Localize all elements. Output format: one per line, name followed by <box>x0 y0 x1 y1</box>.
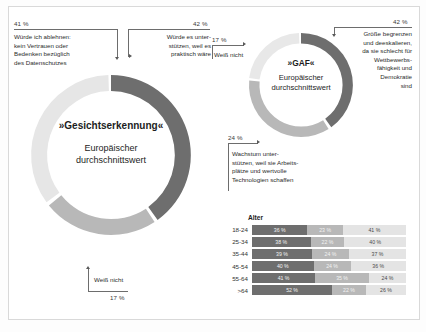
callout-unknown-right-pct: 17 % <box>212 36 227 43</box>
bar-segment: 24 % <box>312 249 349 259</box>
callout-growth-rule-v <box>228 143 229 191</box>
callout-support-text: Würde es unter- stützen, weil es praktis… <box>135 33 211 59</box>
donut-left-segment-unknown <box>49 195 155 235</box>
callout-reject-pct: 41 % <box>14 20 29 27</box>
callout-support-rule-h <box>128 29 210 30</box>
callout-reject-rule-v <box>117 29 118 57</box>
bar-segment: 36 % <box>351 261 406 271</box>
bar-segment: 39 % <box>252 249 312 259</box>
bar-segment: 52 % <box>252 285 332 295</box>
callout-growth-text: Wachstum unter- stützen, weil sie Arbeit… <box>232 150 326 184</box>
bar-segment: 22 % <box>311 237 345 247</box>
callout-growth-rule-h <box>228 143 258 144</box>
donut-left-title: »Gesichtserkennung« <box>18 120 204 131</box>
bar-row: 18-2436 %23 %41 % <box>224 225 406 235</box>
callout-support-rule-v <box>128 29 129 57</box>
bar-track: 41 %35 %24 % <box>252 273 406 283</box>
callout-growth-pct: 24 % <box>228 134 243 141</box>
callout-unknown-right-rule-v <box>212 45 213 59</box>
bar-rows-container: 18-2436 %23 %41 %25-3438 %22 %40 %35-443… <box>224 225 406 295</box>
callout-limit-rule-h <box>334 27 412 28</box>
bar-track: 40 %24 %36 % <box>252 261 406 271</box>
age-breakdown-chart: Alter 18-2436 %23 %41 %25-3438 %22 %40 %… <box>224 214 406 298</box>
bar-row: 25-3438 %22 %40 % <box>224 237 406 247</box>
callout-reject-rule-h <box>14 29 118 30</box>
bars-title: Alter <box>248 214 406 221</box>
bar-segment: 36 % <box>252 225 307 235</box>
callout-unknown-left-pct: 17 % <box>110 294 125 301</box>
bar-segment: 23 % <box>307 225 342 235</box>
bar-segment: 22 % <box>332 285 366 295</box>
callout-support-pct: 42 % <box>193 20 208 27</box>
bar-segment: 41 % <box>252 273 315 283</box>
bar-row-label: 18-24 <box>224 226 252 233</box>
bar-track: 52 %22 %26 % <box>252 285 406 295</box>
bar-segment: 26 % <box>366 285 406 295</box>
bar-track: 39 %24 %37 % <box>252 249 406 259</box>
donut-chart-gesichtserkennung: »Gesichtserkennung« Europäischer durchsc… <box>18 62 204 248</box>
bar-segment: 41 % <box>343 225 406 235</box>
bar-row-label: 45-54 <box>224 263 252 270</box>
bar-row-label: >64 <box>224 287 252 294</box>
bar-track: 38 %22 %40 % <box>252 237 406 247</box>
bar-segment: 37 % <box>349 249 406 259</box>
bar-row-label: 35-44 <box>224 250 252 257</box>
callout-growth-arrow-icon <box>257 140 260 144</box>
bar-segment: 24 % <box>314 261 351 271</box>
bar-row: >6452 %22 %26 % <box>224 285 406 295</box>
infographic-canvas: »Gesichtserkennung« Europäischer durchsc… <box>0 0 426 332</box>
callout-reject-text: Würde ich ablehnen: kein Vertrauen oder … <box>14 33 114 67</box>
callout-unknown-right-arrow-icon <box>243 42 246 46</box>
bar-segment: 38 % <box>252 237 311 247</box>
callout-support-arrow-icon <box>129 54 132 58</box>
donut-left-center-label: »Gesichtserkennung« Europäischer durchsc… <box>18 120 204 166</box>
bar-track: 36 %23 %41 % <box>252 225 406 235</box>
callout-limit-pct: 42 % <box>393 18 408 25</box>
bar-row: 35-4439 %24 %37 % <box>224 249 406 259</box>
callout-limit-arrow-icon <box>332 34 336 37</box>
donut-left-subtitle: Europäischer durchschnittswert <box>18 143 204 166</box>
callout-reject-arrow-icon <box>115 57 119 60</box>
callout-unknown-left-rule-v <box>88 269 89 291</box>
bar-row-label: 55-64 <box>224 275 252 282</box>
bar-segment: 40 % <box>252 261 314 271</box>
bar-row: 45-5440 %24 %36 % <box>224 261 406 271</box>
callout-unknown-left-rule-h <box>88 291 128 292</box>
bar-row: 55-6441 %35 %24 % <box>224 273 406 283</box>
bar-segment: 35 % <box>315 273 369 283</box>
callout-limit-text: Größe begrenzen und deeskalieren, da sie… <box>340 30 412 90</box>
bar-row-label: 25-34 <box>224 238 252 245</box>
callout-unknown-right-rule-h <box>212 45 244 46</box>
callout-unknown-right-text: Weiß nicht <box>214 51 258 60</box>
bar-segment: 40 % <box>344 237 406 247</box>
callout-unknown-left-text: Weiß nicht <box>94 276 154 285</box>
bar-segment: 24 % <box>369 273 406 283</box>
